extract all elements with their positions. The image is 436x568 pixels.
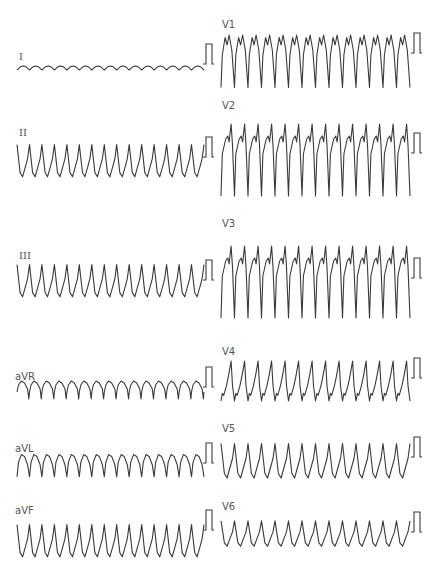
ecg-trace-V2 <box>221 124 410 196</box>
calibration-pulse-aVF <box>203 510 214 530</box>
calibration-pulse-V2 <box>411 133 422 153</box>
ecg-trace-II <box>17 145 204 177</box>
ecg-trace-III <box>17 265 204 297</box>
lead-label-V3: V3 <box>222 219 235 229</box>
calibration-pulse-V4 <box>411 358 422 378</box>
lead-label-I: I <box>19 52 23 62</box>
ecg-trace-aVL <box>17 455 204 477</box>
lead-label-V6: V6 <box>222 502 235 512</box>
lead-label-V1: V1 <box>222 20 235 30</box>
calibration-pulse-V6 <box>411 512 422 532</box>
calibration-pulse-aVR <box>203 367 214 387</box>
calibration-pulse-III <box>203 260 214 280</box>
ecg-trace-V5 <box>221 444 410 479</box>
ecg-trace-V4 <box>221 361 410 401</box>
calibration-pulse-aVL <box>203 443 214 463</box>
calibration-pulse-I <box>203 44 214 64</box>
ecg-tracing-canvas <box>0 0 436 568</box>
lead-label-III: III <box>19 251 31 261</box>
ecg-trace-V6 <box>221 521 410 546</box>
lead-label-aVL: aVL <box>15 444 34 454</box>
ecg-traces <box>17 35 410 557</box>
ecg-trace-aVR <box>17 381 204 399</box>
lead-label-II: II <box>19 128 27 138</box>
lead-label-aVR: aVR <box>15 372 35 382</box>
ecg-trace-V1 <box>221 35 410 88</box>
lead-label-V2: V2 <box>222 101 235 111</box>
lead-label-aVF: aVF <box>15 506 34 516</box>
calibration-pulse-V5 <box>411 437 422 457</box>
calibration-pulse-V3 <box>411 258 422 278</box>
ecg-trace-V3 <box>221 246 410 318</box>
ecg-trace-I <box>17 66 204 70</box>
calibration-pulse-II <box>203 137 214 157</box>
lead-label-V5: V5 <box>222 424 235 434</box>
calibration-pulse-V1 <box>411 33 422 53</box>
lead-label-V4: V4 <box>222 347 235 357</box>
ecg-trace-aVF <box>17 525 204 557</box>
